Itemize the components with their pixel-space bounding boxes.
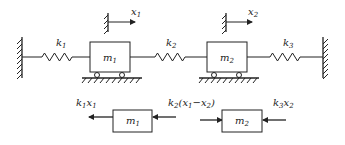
two-mass-spring-diagram: k1 m1 x1 k2 m2 x2 k3: [0, 0, 345, 145]
spring-k2-label: k2: [166, 37, 177, 50]
spring-k2: [130, 53, 207, 61]
force-label-k3x2: k3x2: [273, 97, 294, 110]
displacement-x1-label: x1: [131, 6, 141, 19]
spring-k1-label: k1: [56, 37, 67, 50]
spring-k1: [22, 53, 90, 61]
left-wall: [17, 37, 22, 79]
force-label-k1x1: k1x1: [76, 97, 97, 110]
right-wall: [323, 37, 328, 79]
displacement-x2-label: x2: [248, 6, 259, 19]
spring-k3-label: k3: [283, 37, 294, 50]
spring-k3: [247, 53, 323, 61]
force-label-k2-x1-minus-x2: k2(x1−x2): [168, 97, 215, 110]
